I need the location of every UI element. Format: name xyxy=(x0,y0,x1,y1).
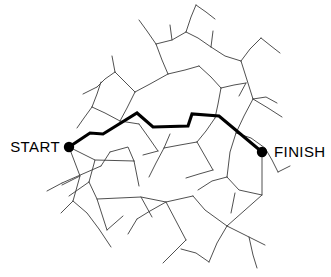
finish-point-dot[interactable] xyxy=(257,147,267,157)
maze-wall-segment xyxy=(139,20,156,44)
maze-wall-segment xyxy=(62,166,101,183)
maze-wall-segment xyxy=(69,147,95,182)
maze-wall-segment xyxy=(112,56,115,72)
maze-wall-segment xyxy=(107,216,123,230)
maze-wall-segment xyxy=(227,177,262,195)
maze-wall-segment xyxy=(143,151,158,155)
maze-wall-segment xyxy=(211,31,213,47)
solution-path xyxy=(69,113,262,152)
maze-wall-segment xyxy=(278,166,290,172)
maze-wall-segment xyxy=(135,74,168,92)
maze-wall-segment xyxy=(231,193,235,213)
maze-wall-segment xyxy=(239,83,246,96)
maze-wall-segment xyxy=(89,182,107,230)
maze-wall-segment xyxy=(197,142,213,170)
maze-wall-segment xyxy=(92,82,101,107)
maze-wall-segment xyxy=(211,47,241,61)
maze-wall-segment xyxy=(236,99,253,133)
maze-wall-segment xyxy=(110,147,134,161)
maze-wall-segment xyxy=(227,152,262,226)
maze-wall-segment xyxy=(164,142,197,148)
maze-wall-segment xyxy=(199,66,221,88)
maze-wall-segment xyxy=(186,32,211,47)
maze-wall-segment xyxy=(209,226,227,262)
maze-wall-segment xyxy=(241,61,253,99)
maze-wall-segment xyxy=(261,38,280,53)
maze-wall-segment xyxy=(186,5,196,32)
maze-wall-segment xyxy=(241,38,261,61)
finish-label: FINISH xyxy=(274,143,326,160)
maze-wall-segment xyxy=(253,97,277,103)
maze-wall-segment xyxy=(227,133,236,177)
maze-wall-segment xyxy=(249,237,257,268)
maze-wall-segment xyxy=(95,160,134,161)
maze-wall-segment xyxy=(92,107,120,121)
maze-wall-segment xyxy=(166,202,186,240)
maze-wall-segment xyxy=(197,118,215,142)
maze-wall-segment xyxy=(196,5,215,19)
maze-wall-segment xyxy=(128,219,137,234)
maze-wall-segment xyxy=(101,152,110,166)
maze-wall-segment xyxy=(163,240,186,263)
maze-wall-segment xyxy=(181,249,209,262)
maze-wall-segment xyxy=(221,83,246,88)
maze-wall-segment xyxy=(198,177,227,190)
maze-wall-segment xyxy=(164,134,170,148)
maze-wall-segment xyxy=(47,183,62,191)
maze-wall-segment xyxy=(141,197,152,217)
maze-wall-segment xyxy=(61,147,80,213)
maze-wall-segment xyxy=(115,72,135,92)
maze-wall-segment xyxy=(77,107,92,128)
maze-wall-segment xyxy=(156,44,168,74)
maze-wall-segment xyxy=(97,196,193,202)
maze-wall-segment xyxy=(253,99,282,117)
maze-wall-segment xyxy=(69,182,89,196)
start-label: START xyxy=(10,138,60,155)
maze-canvas: START FINISH xyxy=(0,0,331,277)
maze-wall-segment xyxy=(227,226,265,245)
maze-wall-segment xyxy=(186,170,213,178)
maze-wall-segment xyxy=(83,87,97,94)
maze-wall-segment xyxy=(170,25,172,40)
maze-wall-segment xyxy=(215,88,221,118)
maze-wall-segment xyxy=(168,66,199,74)
start-point-dot[interactable] xyxy=(64,142,74,152)
maze-wall-segment xyxy=(193,196,227,226)
maze-wall-segment xyxy=(134,161,139,186)
maze-figure: START FINISH xyxy=(0,0,331,277)
maze-wall-segment xyxy=(62,176,80,185)
